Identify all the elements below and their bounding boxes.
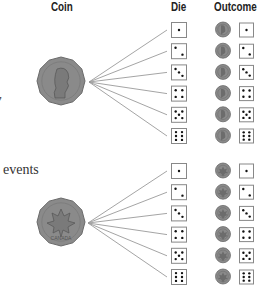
branch-line xyxy=(89,82,167,94)
die-face-1 xyxy=(172,164,187,179)
die-face-3 xyxy=(172,206,187,221)
outcome-die-3 xyxy=(240,206,254,220)
outcome-die-5 xyxy=(240,249,254,263)
die-face-1 xyxy=(172,23,187,38)
branch-line xyxy=(89,82,167,136)
die-face-5 xyxy=(172,107,187,122)
outcome-die-1 xyxy=(240,23,254,37)
outcome-coin-heads xyxy=(216,86,231,101)
outcome-coin-tails xyxy=(216,163,231,178)
svg-text:CANADA: CANADA xyxy=(51,235,73,241)
outcome-die-2 xyxy=(240,44,254,58)
outcome-die-4 xyxy=(240,228,254,242)
outcome-coin-tails xyxy=(216,227,231,242)
branch-line xyxy=(88,223,167,256)
die-face-4 xyxy=(172,227,187,242)
die-face-6 xyxy=(172,129,187,144)
coin-heads xyxy=(37,57,85,105)
outcome-die-3 xyxy=(240,65,254,79)
outcome-coin-heads xyxy=(216,22,231,37)
outcome-die-1 xyxy=(240,164,254,178)
branch-line xyxy=(88,223,167,277)
outcome-coin-tails xyxy=(216,184,231,199)
branch-line xyxy=(88,223,167,235)
tree-diagram: CANADA xyxy=(0,0,266,296)
outcome-coin-heads xyxy=(216,43,231,58)
branch-line xyxy=(89,82,167,115)
outcome-die-2 xyxy=(240,185,254,199)
coin-tails: CANADA xyxy=(37,198,85,246)
die-face-5 xyxy=(172,248,187,263)
outcome-die-6 xyxy=(240,270,254,284)
die-face-3 xyxy=(172,65,187,80)
outcome-coin-tails xyxy=(216,205,231,220)
die-face-2 xyxy=(172,44,187,59)
outcome-die-4 xyxy=(240,87,254,101)
die-face-4 xyxy=(172,86,187,101)
die-face-2 xyxy=(172,185,187,200)
outcome-coin-tails xyxy=(216,269,231,284)
outcome-coin-tails xyxy=(216,248,231,263)
outcome-coin-heads xyxy=(216,64,231,79)
outcome-die-6 xyxy=(240,129,254,143)
outcome-coin-heads xyxy=(216,107,231,122)
outcome-coin-heads xyxy=(216,128,231,143)
outcome-die-5 xyxy=(240,108,254,122)
die-face-6 xyxy=(172,270,187,285)
